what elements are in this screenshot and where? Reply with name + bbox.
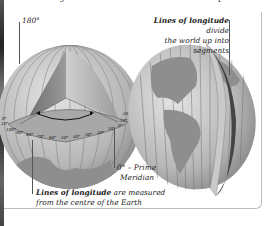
label-measured-rest: are measured <box>111 188 165 197</box>
svg-text:90°: 90° <box>16 130 23 135</box>
label-prime-meridian: 0° – Prime Meridian <box>117 163 156 183</box>
label-measured: Lines of longitude are measured from the… <box>36 188 165 208</box>
svg-text:70°: 70° <box>37 134 44 139</box>
leader-divide <box>229 20 230 75</box>
svg-text:10°: 10° <box>120 118 127 123</box>
label-divide-line2: the world up into segments <box>133 36 229 56</box>
label-measured-bold: Lines of longitude <box>36 188 111 197</box>
label-180-text: 180° <box>22 16 40 25</box>
svg-text:80°: 80° <box>26 132 33 137</box>
svg-text:10°: 10° <box>1 121 8 126</box>
label-divide-rest: divide <box>206 26 229 35</box>
label-prime-line1: 0° – Prime <box>117 163 156 173</box>
svg-text:20°: 20° <box>96 130 104 135</box>
leader-measured <box>32 140 33 194</box>
label-180-degrees: 180° <box>22 16 40 26</box>
svg-text:60°: 60° <box>49 135 56 140</box>
svg-text:50°: 50° <box>61 135 68 140</box>
svg-text:100°: 100° <box>6 127 16 132</box>
label-divide-bold: Lines of longitude <box>154 16 229 25</box>
label-prime-line2: Meridian <box>117 173 156 183</box>
svg-text:30°: 30° <box>85 132 92 137</box>
svg-text:40°: 40° <box>72 134 80 139</box>
label-divide: Lines of longitude divide the world up i… <box>133 16 229 56</box>
leader-prime <box>114 128 115 168</box>
label-measured-line2: from the centre of the Earth <box>36 198 165 208</box>
leader-180 <box>19 22 20 64</box>
svg-text:0°: 0° <box>118 123 123 128</box>
